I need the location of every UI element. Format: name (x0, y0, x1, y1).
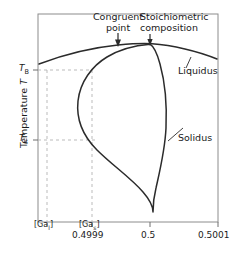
marker-liquid-main: [Ga (34, 220, 48, 229)
congruent-point-line1: Congruent (93, 11, 143, 22)
solidus-curve (78, 44, 167, 212)
marker-solid-end: ] (96, 220, 99, 229)
stoichiometric-label: Stoichiometric composition (140, 12, 226, 33)
stoichiometric-line2: composition (140, 22, 198, 33)
y-tick-label-tb: TB (19, 63, 29, 76)
congruent-point-line2: point (106, 22, 130, 33)
marker-solid-main: [Ga (79, 220, 93, 229)
plot-frame (38, 14, 218, 222)
y-axis-ticks (33, 70, 38, 140)
liquidus-curve (39, 44, 217, 64)
stoichiometric-line1: Stoichiometric (140, 11, 209, 22)
liquidus-label: Liquidus (178, 66, 218, 77)
x-tick-label-05001: 0.5001 (198, 230, 230, 240)
y-tick-ts-sub: s (25, 138, 28, 146)
y-axis-title-symbol: T (18, 79, 29, 85)
composition-marker-liquid: [Gal] (34, 221, 53, 231)
solidus-label: Solidus (178, 133, 212, 144)
x-tick-label-05: 0.5 (141, 230, 155, 240)
x-axis-ticks (92, 222, 218, 227)
marker-liquid-end: ] (50, 220, 53, 229)
construction-dashed-lines (38, 70, 98, 222)
y-tick-label-ts: Ts (19, 133, 28, 146)
phase-diagram-figure: Temperature T TB Ts Congruent point Stoi… (0, 0, 246, 259)
y-tick-tb-sub: B (25, 68, 29, 76)
x-tick-label-04999: 0.4999 (72, 230, 104, 240)
